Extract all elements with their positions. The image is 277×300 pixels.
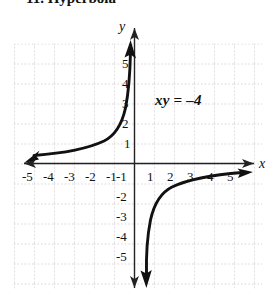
x-tick-label: 2 (167, 170, 174, 183)
x-tick-label: 4 (207, 170, 214, 183)
x-tick-label: -4 (43, 170, 54, 183)
plot-grid (14, 44, 262, 289)
hyperbola-plot (0, 0, 277, 300)
hyperbola-figure: -5 -4 -3 -2 -1 1 2 3 4 5 5 4 3 2 1 -1 -2… (0, 0, 277, 300)
y-tick-label: 5 (122, 57, 129, 70)
y-tick-label: -1 (116, 170, 127, 183)
y-tick-label: 3 (122, 97, 129, 110)
y-tick-label: 1 (124, 137, 131, 150)
x-tick-label: 1 (147, 170, 154, 183)
y-tick-label: 4 (122, 77, 129, 90)
y-tick-label: 2 (122, 117, 129, 130)
x-tick-label: 3 (187, 170, 194, 183)
y-tick-label: -5 (116, 250, 127, 263)
y-tick-label: -4 (116, 230, 127, 243)
x-tick-label: -3 (64, 170, 75, 183)
x-tick-label: -2 (85, 170, 96, 183)
x-tick-label: 5 (227, 170, 234, 183)
equation-annotation: xy = –4 (155, 92, 202, 109)
y-axis-label: y (119, 20, 125, 34)
y-tick-label: -2 (116, 190, 127, 203)
y-tick-label: -3 (116, 210, 127, 223)
x-axis-label: x (259, 157, 265, 171)
x-tick-label: -5 (22, 170, 33, 183)
